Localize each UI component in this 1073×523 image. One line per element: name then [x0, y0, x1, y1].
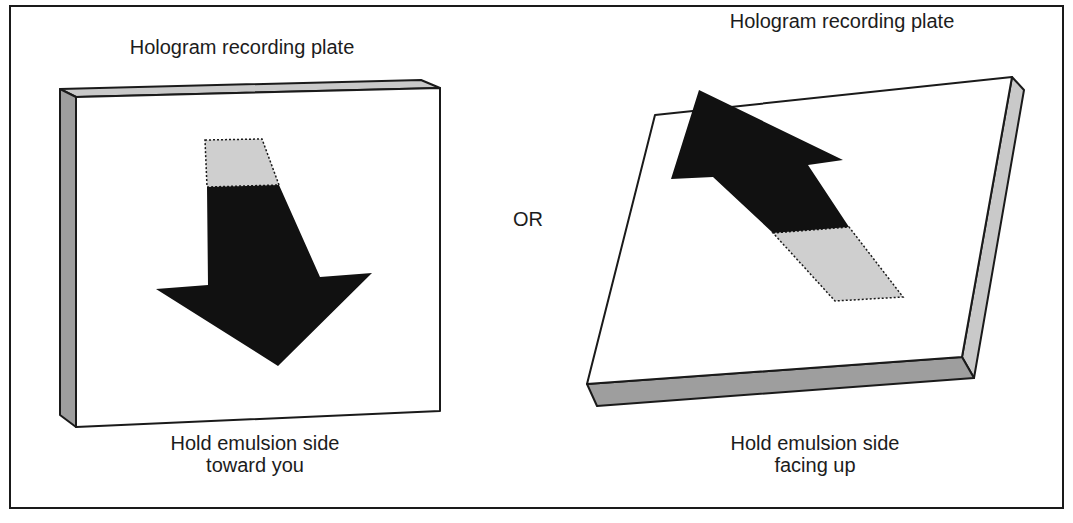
right-caption-line-1: Hold emulsion side: [650, 432, 980, 454]
left-plate-side-edge: [60, 89, 76, 427]
right-plate-title: Hologram recording plate: [660, 10, 1024, 32]
or-separator: OR: [480, 208, 576, 230]
left-plate-title: Hologram recording plate: [60, 36, 424, 58]
left-caption: Hold emulsion side toward you: [90, 432, 420, 476]
left-caption-line-1: Hold emulsion side: [90, 432, 420, 454]
right-caption-line-2: facing up: [650, 454, 980, 476]
left-caption-line-2: toward you: [90, 454, 420, 476]
right-caption: Hold emulsion side facing up: [650, 432, 980, 476]
